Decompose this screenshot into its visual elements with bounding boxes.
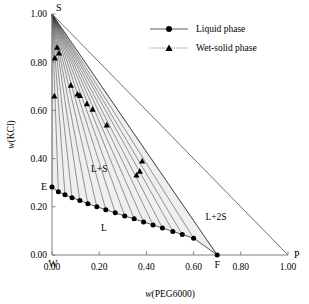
liquid-phase-point-11 <box>141 219 146 224</box>
vertex-label-p: P <box>294 249 300 260</box>
liquid-phase-point-4 <box>77 198 82 203</box>
x-tick-label-3: 0.60 <box>185 262 202 272</box>
liquid-phase-point-2 <box>62 192 67 197</box>
liquid-phase-point-3 <box>70 195 75 200</box>
y-tick-label-2: 0.40 <box>30 154 47 164</box>
x-tick-label-2: 0.40 <box>138 262 155 272</box>
y-tick-label-1: 0.20 <box>30 202 47 212</box>
y-tick-label-0: 0.00 <box>30 250 47 260</box>
liquid-phase-point-9 <box>122 213 127 218</box>
liquid-phase-point-10 <box>132 216 137 221</box>
phase-diagram-figure: 0.000.200.400.600.801.000.000.200.400.60… <box>0 0 309 304</box>
vertex-label-s: S <box>56 2 62 13</box>
liquid-phase-point-7 <box>103 207 108 212</box>
y-tick-label-3: 0.60 <box>30 106 47 116</box>
x-tick-label-1: 0.20 <box>91 262 108 272</box>
x-tick-label-4: 0.80 <box>232 262 249 272</box>
liquid-phase-point-17 <box>215 253 220 258</box>
liquid-phase-point-8 <box>113 210 118 215</box>
y-tick-label-4: 0.80 <box>30 58 47 68</box>
x-axis-title: w(PEG6000) <box>145 289 195 300</box>
liquid-phase-point-5 <box>85 201 90 206</box>
legend-label-1: Wet-solid phase <box>196 43 257 53</box>
region-label-lplus2s: L+2S <box>205 212 226 222</box>
liquid-phase-point-13 <box>160 226 165 231</box>
liquid-phase-point-6 <box>94 204 99 209</box>
vertex-label-e: E <box>41 181 47 192</box>
region-label-lpluss: L+S <box>91 164 107 174</box>
legend-label-0: Liquid phase <box>196 24 245 34</box>
region-label-l: L <box>101 223 107 233</box>
liquid-phase-point-0 <box>50 185 55 190</box>
liquid-phase-point-16 <box>191 236 196 241</box>
legend-marker-triangle-icon <box>165 44 172 51</box>
y-axis-title: w(KCl) <box>6 120 17 149</box>
liquid-phase-point-15 <box>180 232 185 237</box>
legend-marker-circle-icon <box>166 26 172 32</box>
liquid-phase-point-1 <box>56 189 61 194</box>
y-tick-label-5: 1.00 <box>30 9 47 19</box>
vertex-label-w: W <box>48 258 58 269</box>
liquid-phase-point-12 <box>151 222 156 227</box>
liquid-phase-point-14 <box>170 229 175 234</box>
vertex-label-f: F <box>214 259 220 270</box>
x-tick-label-5: 1.00 <box>280 262 297 272</box>
phase-diagram-svg: 0.000.200.400.600.801.000.000.200.400.60… <box>0 0 309 304</box>
